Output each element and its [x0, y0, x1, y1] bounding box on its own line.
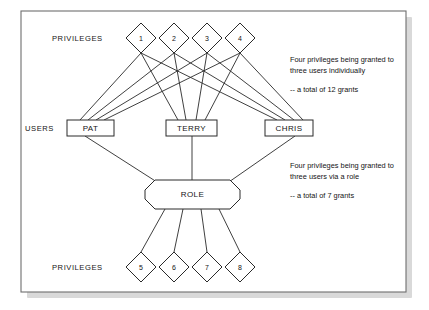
privilege-label: 8 [238, 264, 242, 271]
role-node[interactable]: ROLE [145, 180, 240, 209]
privilege-label: 3 [205, 35, 209, 42]
privileges-role-diagram: 1 2 3 4 PAT TERRY CHRIS ROL [0, 0, 429, 310]
user-label: TERRY [177, 124, 206, 133]
note-line-1: Four privileges being granted to [290, 161, 394, 170]
note-total: -- a total of 12 grants [290, 85, 358, 94]
privilege-label: 7 [205, 264, 209, 271]
diagram-canvas: 1 2 3 4 PAT TERRY CHRIS ROL [0, 0, 429, 310]
role-label: ROLE [181, 190, 204, 199]
user-label: PAT [83, 124, 99, 133]
user-label: CHRIS [276, 124, 303, 133]
privilege-label: 4 [238, 35, 242, 42]
privilege-label: 2 [172, 35, 176, 42]
note-total: -- a total of 7 grants [290, 191, 354, 200]
users-label: USERS [25, 124, 54, 133]
privilege-label: 1 [139, 35, 143, 42]
user-node-pat[interactable]: PAT [67, 120, 114, 136]
note-line-1: Four privileges being granted to [290, 55, 394, 64]
note-line-2: three users individually [290, 66, 365, 75]
privileges-bottom-label: PRIVILEGES [52, 263, 103, 272]
privilege-label: 5 [139, 264, 143, 271]
user-node-terry[interactable]: TERRY [166, 120, 217, 136]
user-node-chris[interactable]: CHRIS [265, 120, 313, 136]
privileges-top-label: PRIVILEGES [52, 34, 103, 43]
diagram-frame [21, 11, 406, 292]
note-line-2: three users via a role [290, 172, 359, 181]
privilege-label: 6 [172, 264, 176, 271]
